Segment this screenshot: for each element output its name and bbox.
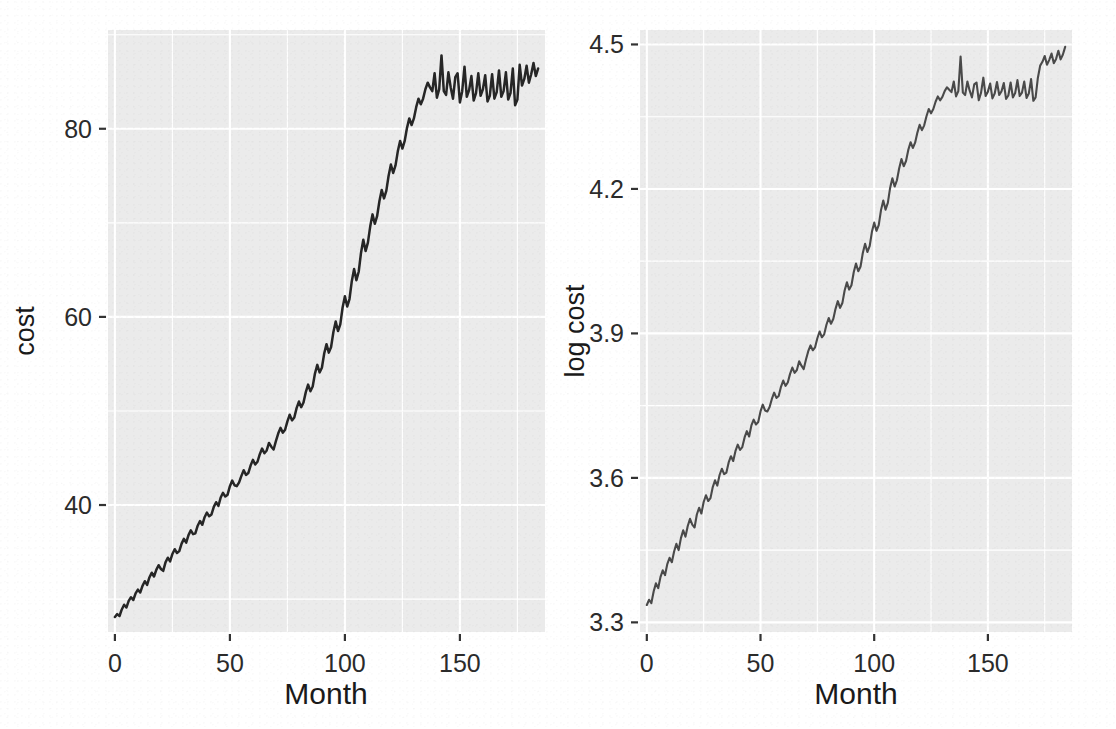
logcost-y-tick-labels: 3.33.63.94.24.5 (589, 30, 624, 636)
cost-y-tick-labels: 406080 (64, 115, 92, 519)
panel-log-cost: 3.33.63.94.24.5 050100150 Month log cost (558, 0, 1116, 729)
x-tick-label: 150 (439, 649, 481, 677)
logcost-x-axis-title: Month (814, 677, 897, 710)
cost-x-axis-title: Month (284, 677, 367, 710)
x-tick-label: 100 (853, 649, 895, 677)
x-tick-label: 100 (324, 649, 366, 677)
x-tick-label: 50 (216, 649, 244, 677)
y-tick-label: 4.2 (589, 175, 624, 203)
logcost-x-tick-labels: 050100150 (640, 649, 1009, 677)
figure-container: 406080 050100150 Month cost 3.33.63.94.2… (0, 0, 1116, 729)
cost-panel-background (108, 30, 545, 632)
y-tick-label: 3.6 (589, 464, 624, 492)
logcost-y-axis-title: log cost (560, 284, 590, 378)
cost-x-tick-labels: 050100150 (108, 649, 481, 677)
cost-y-axis-title: cost (10, 306, 40, 356)
y-tick-label: 60 (64, 303, 92, 331)
y-tick-label: 3.9 (589, 319, 624, 347)
logcost-panel-background (640, 30, 1072, 632)
logcost-plot-svg: 3.33.63.94.24.5 050100150 Month log cost (558, 0, 1116, 729)
y-tick-label: 80 (64, 115, 92, 143)
x-tick-label: 150 (967, 649, 1009, 677)
y-tick-label: 40 (64, 491, 92, 519)
y-tick-label: 4.5 (589, 30, 624, 58)
cost-plot-svg: 406080 050100150 Month cost (0, 0, 558, 729)
x-tick-label: 0 (108, 649, 122, 677)
panel-cost: 406080 050100150 Month cost (0, 0, 558, 729)
x-tick-label: 50 (747, 649, 775, 677)
y-tick-label: 3.3 (589, 608, 624, 636)
x-tick-label: 0 (640, 649, 654, 677)
